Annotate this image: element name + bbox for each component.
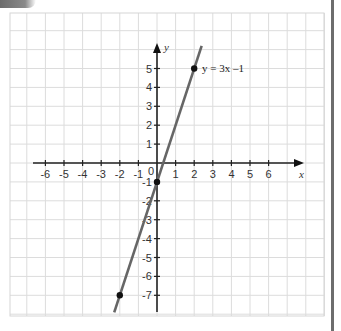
y-tick-label: -5 xyxy=(142,252,152,264)
y-tick-label: -6 xyxy=(142,270,152,282)
y-tick-label: -4 xyxy=(142,233,152,245)
x-tick-label: -5 xyxy=(59,168,69,180)
line-graph: x y 0 -6-5-4-3-2-1123456-7-6-5-4-3-2-112… xyxy=(0,0,341,331)
axes: x y 0 xyxy=(33,41,304,312)
y-tick-label: 4 xyxy=(146,81,152,93)
y-tick-label: -7 xyxy=(142,289,152,301)
y-axis-arrow-icon xyxy=(153,43,161,53)
y-tick-label: -1 xyxy=(142,176,152,188)
x-tick-label: -3 xyxy=(96,168,106,180)
x-axis-label: x xyxy=(298,168,304,180)
x-tick-label: 5 xyxy=(247,168,253,180)
y-tick-label: 3 xyxy=(146,100,152,112)
x-axis-arrow-icon xyxy=(294,159,304,167)
x-tick-label: 4 xyxy=(228,168,234,180)
y-tick-label: 5 xyxy=(146,63,152,75)
y-tick-label: 1 xyxy=(146,138,152,150)
x-tick-label: -2 xyxy=(115,168,125,180)
x-tick-label: 2 xyxy=(191,168,197,180)
series xyxy=(114,46,201,312)
x-tick-label: 6 xyxy=(266,168,272,180)
x-tick-label: 1 xyxy=(173,168,179,180)
equation-label: y = 3x –1 xyxy=(202,62,244,74)
y-axis-label: y xyxy=(163,41,169,53)
data-point xyxy=(154,179,160,185)
x-tick-label: -4 xyxy=(78,168,88,180)
grid-border xyxy=(10,13,324,316)
grid xyxy=(10,13,324,316)
x-tick-label: -6 xyxy=(40,168,50,180)
y-tick-label: 2 xyxy=(146,119,152,131)
data-point xyxy=(191,65,197,71)
x-tick-label: 3 xyxy=(210,168,216,180)
data-point xyxy=(117,292,123,298)
